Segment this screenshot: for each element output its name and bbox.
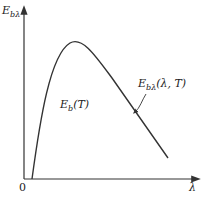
curve-label: Ebλ(λ, T): [138, 77, 186, 92]
planck-diagram: [0, 0, 204, 199]
y-axis-label: Ebλ: [2, 4, 20, 19]
curve-label-pointer: [135, 94, 146, 112]
area-label: Eb(T): [60, 98, 89, 113]
origin-label: 0: [19, 181, 26, 194]
x-axis-label: λ: [189, 181, 196, 194]
spectral-curve: [32, 42, 168, 179]
